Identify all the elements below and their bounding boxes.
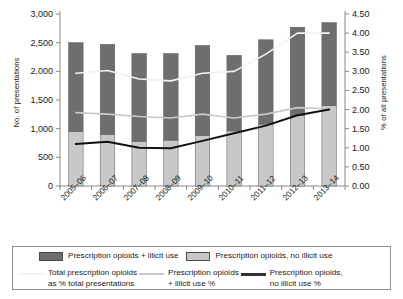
y-axis-right-tick-label: 3.00 bbox=[352, 66, 370, 76]
y-axis-left-tick-label: 1,500 bbox=[30, 95, 53, 105]
y-axis-right-tick-label: 3.50 bbox=[352, 47, 370, 57]
legend-swatch-icon bbox=[39, 252, 63, 261]
bar-segment bbox=[69, 43, 84, 132]
legend-label: Prescription opioids, no illicit use % bbox=[270, 268, 343, 289]
y-axis-right-tick-label: 1.00 bbox=[352, 143, 370, 153]
chart-legend: Prescription opioids + illicit usePrescr… bbox=[12, 246, 391, 290]
bar-segment bbox=[227, 55, 242, 131]
bar-segment bbox=[290, 27, 305, 115]
legend-line-icon bbox=[241, 273, 266, 276]
y-axis-left-tick-label: 500 bbox=[38, 152, 53, 162]
x-axis-tick-labels: 2005–062006–072007–082008–092009–102010–… bbox=[0, 192, 403, 248]
y-axis-right-tick-label: 0.50 bbox=[352, 162, 370, 172]
legend-label: Prescription opioids, no illicit use bbox=[215, 251, 332, 262]
y-axis-right-tick-label: 4.00 bbox=[352, 28, 370, 38]
bar-segment bbox=[100, 44, 115, 134]
legend-line-icon bbox=[19, 273, 44, 275]
legend-row-bars: Prescription opioids + illicit usePrescr… bbox=[13, 247, 390, 265]
y-axis-right-tick-label: 2.00 bbox=[352, 105, 370, 115]
legend-swatch-icon bbox=[186, 252, 210, 261]
legend-entry-line: Prescription opioids, no illicit use % bbox=[241, 265, 343, 289]
legend-entry-bar: Prescription opioids, no illicit use bbox=[186, 251, 332, 262]
legend-line-icon bbox=[139, 273, 164, 275]
legend-label: Prescription opioids + illicit use bbox=[68, 251, 178, 262]
y-axis-left-tick-label: 3,000 bbox=[30, 9, 53, 19]
bar-segment bbox=[195, 46, 210, 136]
legend-entry-line: Total prescription opioids as % total pr… bbox=[19, 265, 137, 289]
chart-figure: 05001,0001,5002,0002,5003,0000.000.501.0… bbox=[0, 0, 403, 299]
y-axis-left-tick-label: 1,000 bbox=[30, 124, 53, 134]
y-axis-left-tick-label: 2,000 bbox=[30, 66, 53, 76]
bar-segment bbox=[132, 54, 147, 142]
legend-row-lines: Total prescription opioids as % total pr… bbox=[13, 265, 390, 290]
y-axis-left-title: No. of presentations bbox=[12, 33, 21, 153]
y-axis-right-tick-label: 4.50 bbox=[352, 9, 370, 19]
bar-segment bbox=[259, 40, 274, 124]
y-axis-right-tick-label: 1.50 bbox=[352, 124, 370, 134]
y-axis-right-title: % of all presentations bbox=[379, 28, 388, 158]
bar-segment bbox=[322, 23, 337, 106]
legend-label: Prescription opioids + illicit use % bbox=[168, 268, 239, 289]
chart-canvas: 05001,0001,5002,0002,5003,0000.000.501.0… bbox=[0, 0, 403, 200]
y-axis-left-tick-label: 0 bbox=[48, 181, 53, 191]
plot-area: 05001,0001,5002,0002,5003,0000.000.501.0… bbox=[0, 0, 403, 200]
y-axis-left-tick-label: 2,500 bbox=[30, 38, 53, 48]
legend-entry-line: Prescription opioids + illicit use % bbox=[139, 265, 239, 289]
y-axis-right-tick-label: 2.50 bbox=[352, 85, 370, 95]
legend-label: Total prescription opioids as % total pr… bbox=[48, 268, 137, 289]
legend-entry-bar: Prescription opioids + illicit use bbox=[39, 251, 178, 262]
y-axis-right-tick-label: 0.00 bbox=[352, 181, 370, 191]
bar-segment bbox=[164, 54, 179, 141]
